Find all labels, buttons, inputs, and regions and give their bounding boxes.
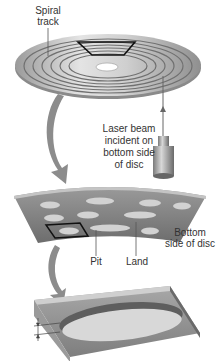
- land-label: Land: [124, 256, 150, 267]
- pit-label: Pit: [86, 256, 106, 267]
- bottom-side-label: Bottom side of disc: [160, 227, 220, 249]
- laser-beam-label: Laser beam incident on bottom side of di…: [100, 123, 158, 171]
- arrow-strip-to-block: [48, 245, 66, 306]
- spiral-track-label: Spiral track: [28, 5, 68, 27]
- disc: [15, 34, 201, 99]
- laser-arrow-head: [160, 106, 166, 112]
- cd-diagram: [0, 0, 220, 361]
- arrow-disc-to-strip: [47, 94, 68, 184]
- disc-center-hole: [96, 63, 118, 71]
